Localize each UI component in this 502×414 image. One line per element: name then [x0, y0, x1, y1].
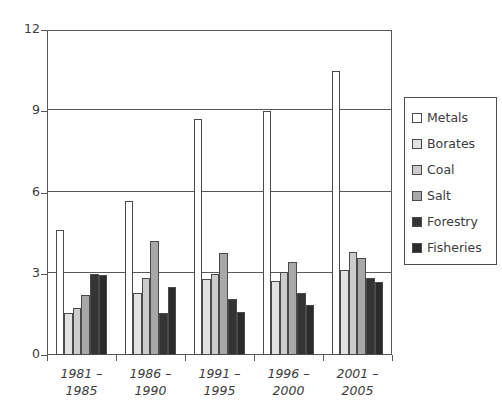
- legend-swatch-icon: [412, 139, 422, 149]
- bar-fisheries-2: [168, 287, 177, 355]
- x-label-line: 1991 –: [198, 366, 240, 381]
- bar-forestry-3: [228, 299, 237, 355]
- x-label-line: 2005: [313, 383, 403, 400]
- bar-borates-5: [340, 270, 349, 355]
- legend-label: Coal: [427, 164, 455, 177]
- bar-metals-3: [194, 119, 203, 355]
- legend-swatch-icon: [412, 217, 422, 227]
- legend-swatch-icon: [412, 191, 422, 201]
- bar-coal-1: [73, 308, 82, 355]
- bar-salt-3: [219, 253, 228, 355]
- bar-group-3: [194, 30, 246, 355]
- legend-swatch-icon: [412, 113, 422, 123]
- legend-label: Metals: [427, 112, 468, 125]
- x-tick-mark-1: [116, 355, 117, 361]
- bar-salt-4: [288, 262, 297, 355]
- legend-item-fisheries[interactable]: Fisheries: [412, 235, 496, 261]
- bar-forestry-2: [159, 313, 168, 355]
- y-tick-label-12: 12: [24, 23, 40, 36]
- bar-forestry-5: [366, 278, 375, 355]
- legend: MetalsBoratesCoalSaltForestryFisheries: [404, 97, 497, 265]
- bar-group-4: [263, 30, 315, 355]
- legend-item-borates[interactable]: Borates: [412, 131, 496, 157]
- bar-borates-1: [64, 313, 73, 355]
- y-tick-label-3: 3: [32, 267, 40, 280]
- legend-item-metals[interactable]: Metals: [412, 105, 496, 131]
- y-tick-label-6: 6: [32, 186, 40, 199]
- bar-forestry-4: [297, 293, 306, 355]
- legend-label: Forestry: [427, 216, 478, 229]
- bar-metals-2: [125, 201, 134, 355]
- bar-borates-3: [202, 279, 211, 355]
- bar-fisheries-1: [99, 275, 108, 355]
- x-tick-mark-3: [254, 355, 255, 361]
- bar-coal-4: [280, 272, 289, 355]
- x-tick-mark-4: [323, 355, 324, 361]
- x-label-line: 1986 –: [129, 366, 171, 381]
- bar-fisheries-4: [306, 305, 315, 355]
- x-tick-mark-2: [185, 355, 186, 361]
- bar-metals-5: [332, 71, 341, 355]
- bar-fisheries-5: [375, 282, 384, 355]
- x-axis-label-5: 2001 –2005: [313, 366, 403, 400]
- bar-borates-2: [133, 293, 142, 355]
- x-tick-mark-0: [47, 355, 48, 361]
- x-label-line: 1981 –: [60, 366, 102, 381]
- bar-salt-5: [357, 258, 366, 356]
- bar-borates-4: [271, 281, 280, 355]
- legend-item-forestry[interactable]: Forestry: [412, 209, 496, 235]
- legend-item-salt[interactable]: Salt: [412, 183, 496, 209]
- bar-chart: 036912 1981 –19851986 –19901991 –1995199…: [0, 0, 502, 414]
- legend-label: Salt: [427, 190, 451, 203]
- bar-coal-3: [211, 274, 220, 355]
- x-label-line: 1996 –: [267, 366, 309, 381]
- legend-swatch-icon: [412, 243, 422, 253]
- bar-group-2: [125, 30, 177, 355]
- bar-group-5: [332, 30, 384, 355]
- legend-swatch-icon: [412, 165, 422, 175]
- bar-metals-1: [56, 230, 65, 355]
- x-tick-mark-5: [392, 355, 393, 361]
- y-tick-label-9: 9: [32, 104, 40, 117]
- bar-forestry-1: [90, 274, 99, 355]
- bar-coal-5: [349, 252, 358, 355]
- bar-group-1: [56, 30, 108, 355]
- bar-salt-1: [81, 295, 90, 355]
- bar-salt-2: [150, 241, 159, 355]
- bar-metals-4: [263, 111, 272, 355]
- x-label-line: 2001 –: [336, 366, 378, 381]
- legend-label: Fisheries: [427, 242, 482, 255]
- bar-coal-2: [142, 278, 151, 355]
- y-tick-label-0: 0: [32, 348, 40, 361]
- legend-label: Borates: [427, 138, 475, 151]
- bar-fisheries-3: [237, 312, 246, 355]
- bar-groups-layer: [47, 30, 392, 355]
- legend-item-coal[interactable]: Coal: [412, 157, 496, 183]
